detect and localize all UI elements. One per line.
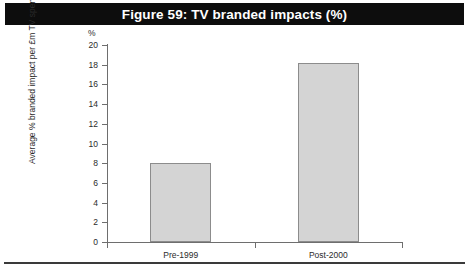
y-axis-tick-label: 20 xyxy=(76,40,98,50)
bar xyxy=(150,163,211,242)
figure-title-bar: Figure 59: TV branded impacts (%) xyxy=(5,3,464,25)
y-axis-tick-label: 12 xyxy=(76,119,98,129)
x-axis-tick xyxy=(255,243,256,248)
bar xyxy=(298,63,359,242)
x-axis-category-label: Post-2000 xyxy=(255,250,403,260)
figure-title: Figure 59: TV branded impacts (%) xyxy=(122,7,347,22)
x-axis-category-label: Pre-1999 xyxy=(107,250,255,260)
y-axis-line xyxy=(107,44,108,243)
y-axis-tick xyxy=(102,222,107,223)
y-axis-tick xyxy=(102,183,107,184)
y-axis-tick xyxy=(102,65,107,66)
y-axis-tick-label: 2 xyxy=(76,217,98,227)
y-axis-tick xyxy=(102,45,107,46)
y-axis-tick-label: 16 xyxy=(76,79,98,89)
y-axis-tick-label: 14 xyxy=(76,99,98,109)
y-axis-tick xyxy=(102,203,107,204)
y-axis-tick-label: 10 xyxy=(76,139,98,149)
x-axis-tick xyxy=(107,243,108,248)
y-axis-tick xyxy=(102,124,107,125)
y-axis-tick xyxy=(102,104,107,105)
y-axis-tick-label: 4 xyxy=(76,198,98,208)
figure-container: Figure 59: TV branded impacts (%) % Aver… xyxy=(0,0,469,273)
y-axis-tick-label: 0 xyxy=(76,237,98,247)
y-axis-tick-label: 6 xyxy=(76,178,98,188)
x-axis-tick xyxy=(402,243,403,248)
y-axis-title: Average % branded impact per £m TV spend xyxy=(27,0,37,169)
y-axis-tick xyxy=(102,84,107,85)
y-axis-tick xyxy=(102,144,107,145)
y-axis-tick-label: 8 xyxy=(76,158,98,168)
y-axis-tick xyxy=(102,163,107,164)
figure-bottom-rule xyxy=(4,262,465,264)
y-axis-unit-label: % xyxy=(88,28,96,38)
y-axis-tick-label: 18 xyxy=(76,60,98,70)
